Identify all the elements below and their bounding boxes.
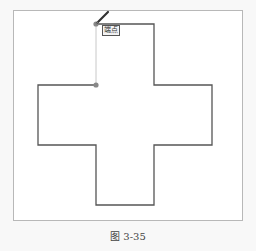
- figure-caption: 图 3-35: [0, 228, 256, 243]
- snap-tooltip: 端点: [102, 25, 120, 36]
- pencil-icon: [96, 12, 108, 24]
- cross-drawing[interactable]: [0, 0, 256, 251]
- cross-outline: [38, 24, 212, 205]
- current-point-marker[interactable]: [93, 82, 98, 87]
